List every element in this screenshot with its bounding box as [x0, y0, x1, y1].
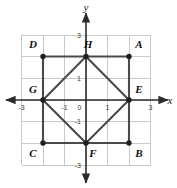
coordinate-plane-svg: x y -3 -1 0 1 3 3 1 -1 -3 D H A	[0, 0, 177, 188]
point-B[interactable]	[126, 140, 131, 145]
point-C[interactable]	[40, 140, 45, 145]
point-label-G: G	[29, 83, 37, 95]
point-F[interactable]	[83, 140, 88, 145]
point-G[interactable]	[40, 97, 45, 102]
y-axis-label: y	[83, 1, 89, 13]
y-tick-label--1: -1	[75, 118, 81, 125]
point-label-A: A	[134, 38, 142, 50]
y-tick-label--3: -3	[75, 162, 81, 169]
point-D[interactable]	[40, 54, 45, 59]
x-tick-label-1: 1	[106, 104, 110, 111]
x-tick-label-0: 0	[78, 104, 82, 111]
x-tick-label--3: -3	[18, 104, 24, 111]
point-label-F: F	[88, 147, 97, 159]
y-tick-label-1: 1	[77, 75, 81, 82]
y-tick-label-3: 3	[77, 32, 81, 39]
point-label-B: B	[134, 147, 142, 159]
x-tick-label-3: 3	[149, 104, 153, 111]
point-label-D: D	[28, 38, 37, 50]
point-H[interactable]	[83, 54, 88, 59]
x-axis-label: x	[167, 94, 173, 106]
point-label-H: H	[83, 38, 93, 50]
point-A[interactable]	[126, 54, 131, 59]
coordinate-plane-figure: x y -3 -1 0 1 3 3 1 -1 -3 D H A	[0, 0, 177, 188]
x-tick-label--1: -1	[61, 104, 67, 111]
point-E[interactable]	[126, 97, 131, 102]
point-label-E: E	[134, 83, 142, 95]
point-label-C: C	[29, 147, 37, 159]
